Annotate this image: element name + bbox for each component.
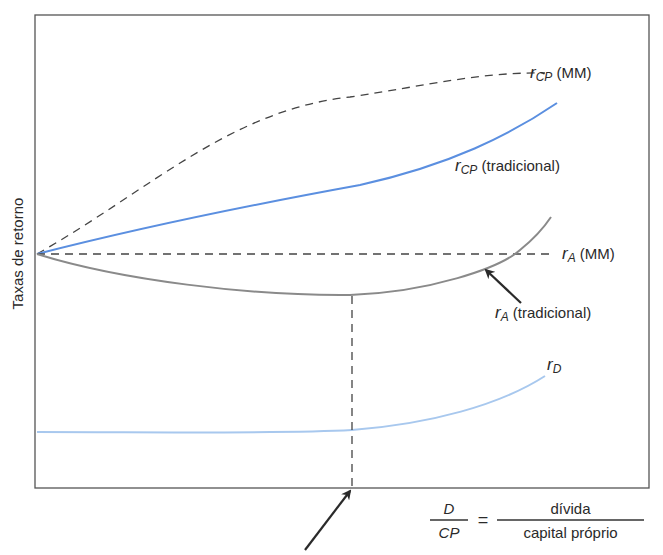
plot-frame (35, 15, 649, 488)
x-label-num-text: dívida (497, 500, 644, 517)
ra-trad-line (37, 217, 551, 295)
rcp-trad-line (37, 103, 557, 254)
y-axis-label: Taxas de retorno (9, 189, 26, 319)
ra-trad-arrow (486, 270, 521, 303)
x-label-den-symbol: CP (430, 524, 468, 541)
label-rcp-mm: rCP (MM) (530, 63, 592, 84)
x-label-num-symbol: D (430, 500, 468, 517)
optimum-arrow (305, 491, 350, 550)
rd-line (37, 376, 545, 433)
label-ra-mm: rA (MM) (562, 244, 615, 265)
label-rcp-trad: rCP (tradicional) (455, 156, 560, 177)
x-label-equals: = (474, 510, 492, 531)
x-label-den-text: capital próprio (497, 524, 644, 541)
label-rd: rD (547, 355, 561, 376)
label-ra-trad: rA (tradicional) (495, 303, 591, 324)
